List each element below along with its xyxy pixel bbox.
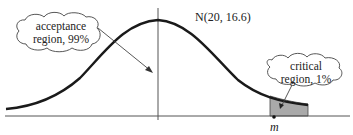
normal-distribution-diagram: N(20, 16.6) acceptance region, 99% criti…	[0, 0, 353, 135]
m-marker-dot	[272, 115, 276, 119]
acceptance-line2: region, 99%	[26, 33, 96, 46]
critical-line2: region, 1%	[276, 73, 336, 86]
critical-line1: critical	[276, 60, 336, 73]
acceptance-region-label: acceptance region, 99%	[26, 20, 96, 46]
distribution-label: N(20, 16.6)	[195, 10, 251, 25]
m-axis-label: m	[270, 120, 279, 135]
acceptance-line1: acceptance	[26, 20, 96, 33]
critical-region-label: critical region, 1%	[276, 60, 336, 86]
